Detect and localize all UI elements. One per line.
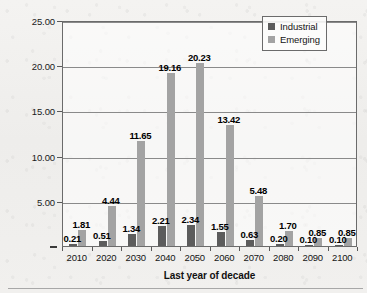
legend-swatch-industrial xyxy=(268,23,275,30)
bar-label-emerging-2090: 0.85 xyxy=(309,227,326,238)
bar-industrial-2020[interactable] xyxy=(99,241,107,246)
y-tick-label: 25.00 xyxy=(9,16,55,27)
bar-industrial-2070[interactable] xyxy=(246,240,254,246)
bar-label-emerging-2030: 11.65 xyxy=(129,130,151,141)
x-tick-label-2030: 2030 xyxy=(126,252,146,263)
bar-label-emerging-2020: 4.44 xyxy=(102,195,119,206)
x-tick-mark xyxy=(328,247,329,251)
legend-swatch-emerging xyxy=(268,36,275,43)
x-tick-label-2020: 2020 xyxy=(96,252,116,263)
x-tick-label-2070: 2070 xyxy=(244,252,264,263)
x-tick-mark xyxy=(210,247,211,251)
bar-chart: Avge annual primary energy increase (EJ)… xyxy=(0,0,367,293)
gridline-20.00 xyxy=(63,67,356,68)
bar-label-industrial-2080: 0.20 xyxy=(270,233,287,244)
page-edge-rule xyxy=(8,288,363,289)
y-tick-label: 15.00 xyxy=(9,106,55,117)
x-tick-mark xyxy=(92,247,93,251)
bar-label-industrial-2070: 0.63 xyxy=(241,229,258,240)
x-tick-mark xyxy=(239,247,240,251)
x-tick-mark xyxy=(121,247,122,251)
bar-industrial-2040[interactable] xyxy=(158,226,166,246)
bar-label-emerging-2010: 1.81 xyxy=(73,219,90,230)
legend-item-industrial[interactable]: Industrial xyxy=(268,20,320,33)
bar-label-emerging-2050: 20.23 xyxy=(188,52,210,63)
bar-industrial-2010[interactable] xyxy=(69,244,77,246)
y-tick-label: 20.00 xyxy=(9,61,55,72)
x-axis-title: Last year of decade xyxy=(62,270,357,281)
bar-industrial-2090[interactable] xyxy=(305,245,313,246)
y-tick-label: 10.00 xyxy=(9,151,55,162)
y-axis-zero-dash xyxy=(50,246,57,248)
bar-label-emerging-2070: 5.48 xyxy=(250,185,267,196)
bar-label-emerging-2060: 13.42 xyxy=(218,114,240,125)
bar-industrial-2050[interactable] xyxy=(187,225,195,246)
x-tick-mark xyxy=(151,247,152,251)
bar-industrial-2080[interactable] xyxy=(276,244,284,246)
bar-label-industrial-2010: 0.21 xyxy=(64,233,81,244)
x-tick-mark xyxy=(180,247,181,251)
gridline-15.00 xyxy=(63,112,356,113)
x-tick-label-2060: 2060 xyxy=(214,252,234,263)
x-tick-mark xyxy=(357,247,358,251)
bar-industrial-2060[interactable] xyxy=(217,232,225,246)
x-tick-label-2080: 2080 xyxy=(273,252,293,263)
x-tick-label-2100: 2100 xyxy=(332,252,352,263)
x-tick-label-2010: 2010 xyxy=(67,252,87,263)
bar-label-emerging-2100: 0.85 xyxy=(338,227,355,238)
x-tick-label-2050: 2050 xyxy=(185,252,205,263)
legend: Industrial Emerging xyxy=(262,16,327,51)
legend-label-emerging: Emerging xyxy=(280,34,320,45)
bar-label-industrial-2030: 1.34 xyxy=(123,223,140,234)
x-tick-mark xyxy=(298,247,299,251)
x-tick-label-2090: 2090 xyxy=(303,252,323,263)
bar-label-emerging-2080: 1.70 xyxy=(279,220,296,231)
bar-label-industrial-2020: 0.51 xyxy=(93,230,110,241)
x-tick-mark xyxy=(269,247,270,251)
bar-label-industrial-2040: 2.21 xyxy=(152,215,169,226)
bar-industrial-2030[interactable] xyxy=(128,234,136,246)
bar-label-industrial-2060: 1.55 xyxy=(211,221,228,232)
x-tick-mark xyxy=(62,247,63,251)
bar-label-industrial-2050: 2.34 xyxy=(182,214,199,225)
legend-item-emerging[interactable]: Emerging xyxy=(268,33,320,46)
gridline-10.00 xyxy=(63,158,356,159)
legend-label-industrial: Industrial xyxy=(280,21,318,32)
bar-industrial-2100[interactable] xyxy=(335,245,343,246)
y-tick-label: 5.00 xyxy=(9,196,55,207)
x-tick-label-2040: 2040 xyxy=(155,252,175,263)
bar-label-emerging-2040: 19.16 xyxy=(159,62,181,73)
